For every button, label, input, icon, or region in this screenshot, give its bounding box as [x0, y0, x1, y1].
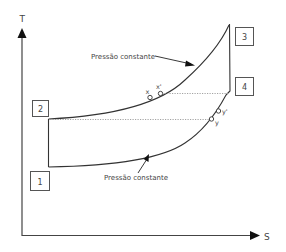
- svg-text:1: 1: [37, 178, 42, 187]
- svg-text:2: 2: [38, 105, 43, 114]
- point-y-label: y: [215, 119, 219, 127]
- lower-curve-annotation: Pressão constante: [104, 154, 168, 182]
- state-box-3: 3: [236, 28, 254, 46]
- expansion-line: [226, 24, 230, 95]
- point-x-label: x: [146, 88, 150, 96]
- lower-curve-arrow: [138, 159, 147, 173]
- upper-curve-arrowhead-icon: [185, 61, 195, 67]
- t-axis: [18, 28, 27, 236]
- s-axis-arrow-icon: [250, 231, 260, 240]
- upper-curve-annotation: Pressão constante: [91, 53, 195, 67]
- upper-curve-arrow: [155, 56, 191, 64]
- point-y-prime-label: y': [222, 108, 228, 116]
- s-axis-label: S: [264, 232, 270, 242]
- ts-diagram: T S x x' y: [0, 0, 286, 252]
- svg-text:4: 4: [242, 83, 247, 92]
- point-x-prime-label: x': [156, 83, 162, 91]
- t-axis-arrow-icon: [18, 28, 27, 38]
- upper-pressure-curve: [49, 25, 230, 119]
- lower-curve-label: Pressão constante: [104, 174, 168, 182]
- state-box-4: 4: [236, 78, 254, 96]
- upper-curve-label: Pressão constante: [91, 53, 155, 61]
- point-y-prime-marker: [216, 109, 220, 113]
- svg-text:3: 3: [242, 33, 247, 42]
- point-x-prime-marker: [158, 91, 162, 95]
- state-box-2: 2: [33, 101, 49, 117]
- t-axis-label: T: [19, 14, 26, 24]
- state-points: [148, 91, 221, 121]
- point-y-marker: [209, 117, 213, 121]
- regeneration-lines: [50, 94, 229, 120]
- s-axis: [22, 231, 260, 240]
- cycle-lines: [49, 24, 231, 167]
- state-box-1: 1: [31, 172, 50, 191]
